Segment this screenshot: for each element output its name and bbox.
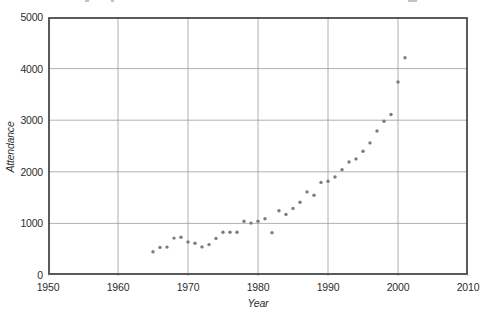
data-point bbox=[375, 129, 378, 132]
x-tick-label: 1960 bbox=[107, 281, 130, 293]
x-tick-label: 2000 bbox=[387, 281, 410, 293]
data-point bbox=[221, 231, 224, 234]
data-point bbox=[403, 56, 406, 59]
data-point bbox=[347, 160, 350, 163]
data-point bbox=[298, 201, 301, 204]
data-point bbox=[368, 141, 371, 144]
x-axis-title: Year bbox=[248, 297, 269, 309]
data-point bbox=[193, 242, 196, 245]
data-points bbox=[151, 56, 406, 253]
data-point bbox=[179, 236, 182, 239]
x-tick-label: 1970 bbox=[177, 281, 200, 293]
plot-area bbox=[48, 17, 469, 276]
data-point bbox=[172, 236, 175, 239]
data-point bbox=[200, 245, 203, 248]
x-tick-label: 1980 bbox=[247, 281, 270, 293]
y-tick-label: 2000 bbox=[20, 166, 43, 178]
data-point bbox=[326, 180, 329, 183]
scatter-plot-figure: 010002000300040005000 195019601970198019… bbox=[0, 0, 491, 318]
data-point bbox=[242, 220, 245, 223]
y-tick-label: 1000 bbox=[20, 217, 43, 229]
data-point bbox=[277, 209, 280, 212]
y-tick-label: 3000 bbox=[20, 114, 43, 126]
y-axis-title: Attendance bbox=[4, 121, 16, 172]
data-point bbox=[151, 250, 154, 253]
data-point bbox=[319, 181, 322, 184]
x-tick-label: 1950 bbox=[37, 281, 60, 293]
data-point bbox=[333, 175, 336, 178]
data-point bbox=[249, 221, 252, 224]
cropped-text-remnant bbox=[111, 0, 114, 2]
data-point bbox=[361, 150, 364, 153]
data-point bbox=[228, 231, 231, 234]
gridlines bbox=[48, 17, 468, 276]
data-point bbox=[207, 243, 210, 246]
data-point bbox=[305, 190, 308, 193]
data-point bbox=[263, 217, 266, 220]
data-point bbox=[256, 220, 259, 223]
data-point bbox=[354, 157, 357, 160]
data-point bbox=[389, 113, 392, 116]
y-tick-label: 0 bbox=[37, 269, 43, 281]
data-point bbox=[291, 207, 294, 210]
data-point bbox=[186, 240, 189, 243]
cropped-text-remnant bbox=[85, 0, 89, 2]
data-point bbox=[312, 194, 315, 197]
y-tick-label: 4000 bbox=[20, 63, 43, 75]
x-tick-label: 2010 bbox=[457, 281, 480, 293]
data-point bbox=[158, 246, 161, 249]
data-point bbox=[214, 237, 217, 240]
data-point bbox=[165, 245, 168, 248]
data-point bbox=[235, 231, 238, 234]
data-point bbox=[270, 231, 273, 234]
cropped-text-remnant bbox=[408, 0, 417, 2]
data-point bbox=[284, 213, 287, 216]
data-point bbox=[340, 168, 343, 171]
x-tick-label: 1990 bbox=[317, 281, 340, 293]
data-point bbox=[382, 120, 385, 123]
data-point bbox=[396, 80, 399, 83]
y-tick-label: 5000 bbox=[20, 11, 43, 23]
